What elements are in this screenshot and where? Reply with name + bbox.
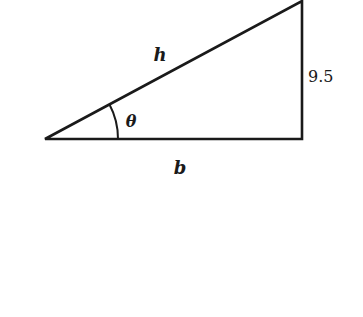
triangle-diagram: h 9.5 θ b <box>0 0 363 317</box>
right-triangle <box>45 1 302 139</box>
base-label: b <box>174 157 187 178</box>
hypotenuse-label: h <box>153 44 166 65</box>
angle-arc <box>110 105 119 140</box>
angle-label: θ <box>126 112 137 131</box>
opposite-side-label: 9.5 <box>308 67 333 86</box>
